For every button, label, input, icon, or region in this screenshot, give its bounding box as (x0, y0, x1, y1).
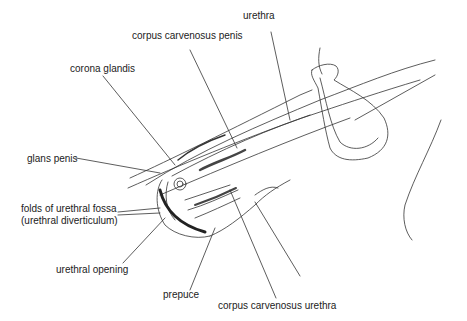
label-corona-glandis: corona glandis (70, 63, 135, 75)
label-prepuce: prepuce (163, 289, 199, 301)
label-corpus-carvenosus-penis: corpus carvenosus penis (132, 30, 243, 42)
label-urethra: urethra (243, 10, 275, 22)
label-corpus-carvenosus-urethra: corpus carvenosus urethra (218, 300, 336, 312)
label-urethral-diverticulum: (urethral diverticulum) (21, 215, 118, 227)
label-folds-of-urethral-fossa: folds of urethral fossa (21, 203, 117, 215)
label-glans-penis: glans penis (27, 153, 78, 165)
label-urethral-opening: urethral opening (56, 264, 128, 276)
